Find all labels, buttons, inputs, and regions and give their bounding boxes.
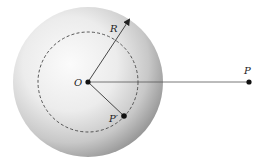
label-inner-point: P′ (108, 113, 119, 124)
label-outer-point: P (243, 65, 251, 76)
outer-point (246, 79, 251, 84)
inner-point (121, 113, 127, 119)
sphere-gravity-diagram: R O P′ P (0, 0, 272, 167)
label-radius: R (109, 23, 118, 34)
label-center: O (74, 77, 82, 88)
center-point (85, 79, 90, 84)
